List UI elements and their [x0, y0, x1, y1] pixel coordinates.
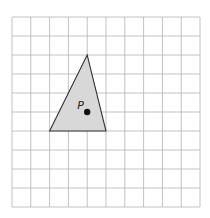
- square-grid: [12, 17, 200, 207]
- grid-diagram: P: [0, 0, 210, 218]
- point-p-label: P: [77, 99, 84, 112]
- point-p: [84, 109, 90, 115]
